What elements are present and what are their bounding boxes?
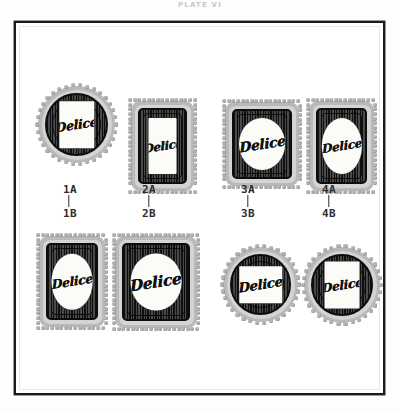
brand-text: Delice	[239, 132, 285, 155]
biscuit-1b[interactable]: Delice	[39, 236, 105, 327]
brand-label: Delice	[52, 253, 93, 309]
brand-text: Delice	[239, 273, 283, 295]
brand-label: Delice	[59, 101, 94, 149]
brand-text: Delice	[131, 269, 182, 295]
biscuit-3a[interactable]: Delice	[225, 102, 299, 186]
tick-line-3	[247, 195, 248, 207]
brand-label: Delice	[148, 118, 177, 174]
brand-text: Delice	[148, 136, 177, 156]
biscuit-2b[interactable]: Delice	[115, 236, 197, 328]
plate-frame: Delice Delice Delice Delice 1A 1B	[14, 21, 385, 395]
brand-label: Delice	[239, 118, 285, 170]
biscuit-4b[interactable]: Delice	[304, 247, 380, 323]
biscuit-3b[interactable]: Delice	[223, 247, 298, 322]
tick-2b: 2B	[142, 207, 156, 220]
tick-line-2	[148, 195, 149, 207]
plate-caption: PLATE VI	[0, 0, 400, 11]
biscuit-2a[interactable]: Delice	[131, 101, 194, 191]
tick-1a: 1A	[63, 183, 77, 196]
brand-text: Delice	[325, 275, 360, 295]
brand-label: Delice	[321, 118, 361, 174]
biscuit-4a[interactable]: Delice	[309, 101, 374, 191]
brand-label: Delice	[239, 266, 283, 304]
brand-label: Delice	[131, 253, 182, 310]
tick-4b: 4B	[322, 207, 336, 220]
tick-1b: 1B	[63, 207, 77, 220]
tick-line-1	[68, 195, 69, 207]
brand-label: Delice	[325, 261, 360, 308]
biscuit-1a[interactable]: Delice	[38, 86, 115, 163]
brand-text: Delice	[52, 271, 93, 293]
brand-text: Delice	[59, 114, 94, 136]
tick-line-4	[328, 195, 329, 207]
brand-text: Delice	[321, 136, 361, 156]
tick-3b: 3B	[241, 207, 255, 220]
